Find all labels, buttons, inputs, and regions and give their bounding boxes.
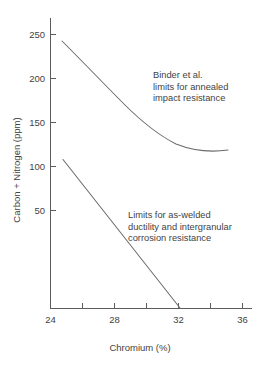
binder-annotation-line-3: impact resistance	[153, 93, 228, 105]
y-tick-label-100: 100	[29, 161, 45, 172]
x-axis-title: Chromium (%)	[109, 342, 170, 353]
y-tick-label-150: 150	[29, 117, 45, 128]
y-tick-label-250: 250	[29, 29, 45, 40]
x-axis-ticks	[51, 303, 243, 309]
chart-figure: 250 200 150 100 50 24 28 32 36 Chromium …	[0, 0, 267, 367]
x-tick-label-36: 36	[237, 314, 248, 325]
y-tick-label-200: 200	[29, 73, 45, 84]
x-tick-label-24: 24	[45, 314, 56, 325]
y-tick-label-50: 50	[34, 205, 45, 216]
as-welded-annotation-line-1: Limits for as-welded	[128, 210, 232, 222]
y-axis-title: Carbon + Nitrogen (ppm)	[11, 117, 22, 222]
as-welded-annotation-line-3: corrosion resistance	[128, 233, 232, 245]
x-tick-label-32: 32	[173, 314, 184, 325]
binder-annotation-line-2: limits for annealed	[153, 82, 228, 94]
binder-annotation-line-1: Binder et al.	[153, 70, 228, 82]
y-axis-ticks	[51, 35, 57, 211]
x-tick-label-28: 28	[109, 314, 120, 325]
binder-annotation: Binder et al. limits for annealed impact…	[153, 70, 228, 105]
chart-canvas: 250 200 150 100 50 24 28 32 36 Chromium …	[0, 0, 267, 367]
as-welded-annotation-line-2: ductility and intergranular	[128, 222, 232, 234]
as-welded-annotation: Limits for as-welded ductility and inter…	[128, 210, 232, 245]
